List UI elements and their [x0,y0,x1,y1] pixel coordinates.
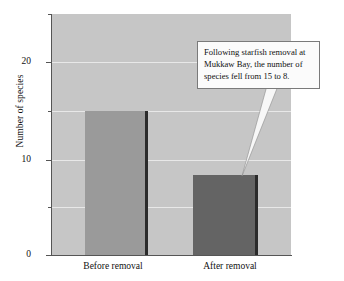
callout-line-1: Following starfish removal at [204,46,314,58]
bar-after-removal-edge [255,175,258,255]
y-tick-major-0 [46,255,52,256]
y-tick-minor-15 [48,111,52,112]
x-tick-label-after-removal: After removal [175,261,285,271]
bar-after-removal-body [193,175,255,255]
bar-after-removal[interactable] [193,175,255,255]
bar-before-removal-edge [145,111,148,255]
callout-line-3: species fell from 15 to 8. [204,70,314,82]
y-tick-major-10 [46,160,52,161]
x-tick-label-before-removal: Before removal [58,261,168,271]
y-tick-major-20 [46,62,52,63]
bar-before-removal[interactable] [85,111,145,255]
y-tick-minor-5 [48,207,52,208]
callout-line-2: Mukkaw Bay, the number of [204,58,314,70]
y-tick-minor-25 [48,14,52,15]
bar-chart-figure: 20 10 0 Number of species Before removal… [0,0,344,281]
bar-before-removal-body [85,111,145,255]
y-tick-label-0: 0 [7,250,31,260]
y-axis-title: Number of species [15,56,25,166]
callout-annotation[interactable]: Following starfish removal at Mukkaw Bay… [197,41,320,89]
y-axis-line [51,14,52,256]
x-axis-line [51,255,292,256]
